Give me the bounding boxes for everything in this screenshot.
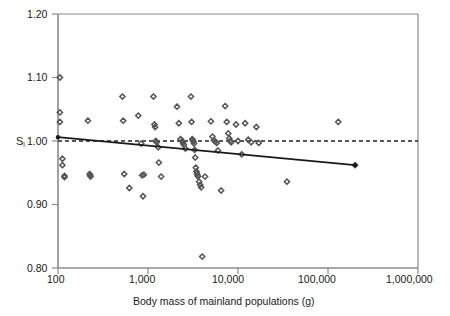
data-point-marker bbox=[120, 94, 125, 99]
data-point-marker bbox=[140, 194, 145, 199]
data-point-marker bbox=[122, 171, 127, 176]
plot-svg bbox=[0, 0, 450, 316]
y-axis-title-subscript: i bbox=[23, 141, 25, 148]
data-point-marker bbox=[235, 138, 240, 143]
data-point-marker bbox=[208, 119, 213, 124]
data-point-marker bbox=[249, 140, 254, 145]
data-point-marker bbox=[224, 119, 229, 124]
data-point-marker bbox=[223, 103, 228, 108]
data-point-marker bbox=[60, 156, 65, 161]
data-point-marker bbox=[62, 175, 67, 180]
data-point-marker bbox=[243, 121, 248, 126]
regression-line bbox=[56, 135, 357, 167]
data-point-marker bbox=[200, 254, 205, 259]
x-axis-title: Body mass of mainland populations (g) bbox=[133, 295, 315, 307]
data-point-marker bbox=[233, 122, 238, 127]
data-point-marker bbox=[188, 94, 193, 99]
data-point-marker bbox=[254, 124, 259, 129]
data-point-marker bbox=[121, 118, 126, 123]
data-point-marker bbox=[193, 155, 198, 160]
x-tick-label-100000: 100,000 bbox=[298, 273, 336, 285]
data-point-marker bbox=[127, 185, 132, 190]
axis-lines bbox=[58, 14, 418, 268]
regression-endpoint-left bbox=[56, 135, 60, 139]
data-point-marker bbox=[151, 94, 156, 99]
data-point-marker bbox=[159, 174, 164, 179]
y-axis-ticks bbox=[52, 14, 58, 268]
data-point-marker bbox=[284, 179, 289, 184]
data-point-marker bbox=[85, 118, 90, 123]
data-point-marker bbox=[176, 121, 181, 126]
y-tick-label-0.80: 0.80 bbox=[27, 262, 47, 274]
data-point-marker bbox=[57, 119, 62, 124]
data-point-marker bbox=[57, 75, 62, 80]
scatter-chart-figure: Si 1.20 1.10 1.00 0.90 0.80 100 1,000 10… bbox=[0, 0, 450, 316]
y-tick-label-1.10: 1.10 bbox=[27, 71, 47, 83]
data-point-marker bbox=[256, 140, 261, 145]
x-tick-label-100: 100 bbox=[47, 273, 65, 285]
data-point-marker bbox=[174, 104, 179, 109]
data-point-marker bbox=[136, 113, 141, 118]
data-point-marker bbox=[226, 131, 231, 136]
y-tick-label-0.90: 0.90 bbox=[27, 198, 47, 210]
data-points-group bbox=[57, 75, 357, 259]
data-point-marker bbox=[336, 119, 341, 124]
regression-endpoint-right bbox=[353, 163, 357, 167]
data-point-marker bbox=[202, 174, 207, 179]
x-tick-label-1000: 1,000 bbox=[129, 273, 155, 285]
data-point-marker bbox=[60, 163, 65, 168]
x-tick-label-10000: 10,000 bbox=[212, 273, 244, 285]
data-point-marker bbox=[189, 119, 194, 124]
y-axis-title: Si bbox=[16, 135, 25, 148]
data-point-marker bbox=[57, 110, 62, 115]
data-point-marker bbox=[219, 188, 224, 193]
data-point-marker bbox=[156, 160, 161, 165]
y-tick-label-1.00: 1.00 bbox=[27, 135, 47, 147]
x-tick-label-1000000: 1,000,000 bbox=[386, 273, 433, 285]
y-tick-label-1.20: 1.20 bbox=[27, 8, 47, 20]
